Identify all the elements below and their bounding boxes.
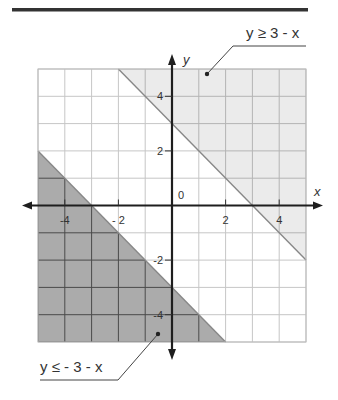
upper-leader-dot (205, 72, 209, 76)
y-tick-label: 4 (157, 90, 163, 102)
x-tick-label: 2 (223, 214, 229, 226)
x-tick-label: - 2 (112, 214, 125, 226)
x-axis-arrow-left-icon (22, 202, 32, 210)
x-tick-label: -4 (60, 214, 70, 226)
y-axis-arrow-up-icon (168, 54, 176, 65)
y-tick-label: 2 (157, 145, 163, 157)
lower-leader-dot (156, 332, 160, 336)
plot-area: -4- 22442-2-40xy (22, 52, 323, 360)
y-tick-label: -4 (153, 309, 163, 321)
y-tick-label: -2 (153, 254, 163, 266)
inequality-chart: -4- 22442-2-40xy y ≥ 3 - x y ≤ - 3 - x (0, 0, 338, 400)
x-tick-label: 4 (276, 214, 282, 226)
top-rule (12, 8, 308, 12)
x-axis-label: x (313, 184, 321, 199)
origin-label: 0 (178, 189, 184, 201)
y-axis-arrow-down-icon (168, 349, 176, 360)
upper-inequality-label: y ≥ 3 - x (246, 24, 300, 41)
lower-inequality-label: y ≤ - 3 - x (40, 358, 103, 375)
x-axis-arrow-right-icon (313, 202, 323, 210)
y-axis-label: y (182, 52, 191, 67)
